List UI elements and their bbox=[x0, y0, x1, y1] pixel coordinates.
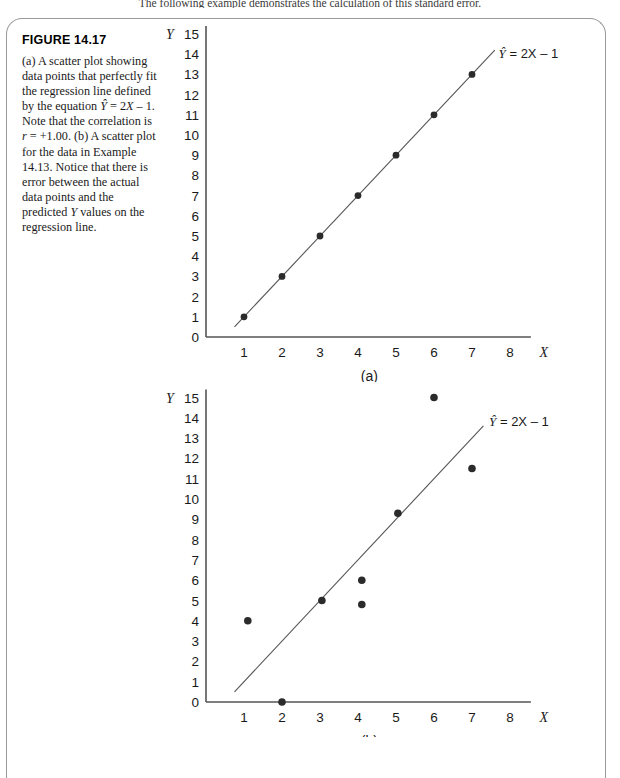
panel-label: (a) bbox=[361, 368, 378, 382]
data-point bbox=[279, 273, 286, 280]
y-tick-label: 10 bbox=[184, 128, 199, 143]
y-tick-label: 10 bbox=[184, 492, 199, 507]
y-tick-label: 0 bbox=[191, 330, 199, 345]
data-point bbox=[358, 601, 366, 609]
x-tick-label: 7 bbox=[468, 345, 476, 360]
eq-rest: = 2X – 1 bbox=[496, 414, 548, 429]
y-tick-label: 4 bbox=[191, 614, 199, 629]
y-tick-label: 0 bbox=[191, 695, 199, 710]
y-tick-label: 11 bbox=[185, 472, 199, 487]
running-head-text: The following example demonstrates the c… bbox=[0, 0, 620, 8]
x-tick-label: 3 bbox=[316, 710, 324, 725]
scatter-plot-b: 012345678910111213141512345678YXŶ = 2X … bbox=[160, 385, 580, 737]
y-tick-label: 2 bbox=[191, 290, 199, 305]
data-point bbox=[358, 576, 366, 584]
x-tick-label: 1 bbox=[240, 345, 248, 360]
y-tick-label: 8 bbox=[191, 168, 199, 183]
y-tick-label: 11 bbox=[185, 108, 199, 123]
x-tick-label: 8 bbox=[506, 345, 514, 360]
y-axis-title: Y bbox=[166, 27, 176, 42]
data-point bbox=[241, 313, 248, 320]
y-tick-label: 8 bbox=[191, 533, 199, 548]
x-axis-title: X bbox=[539, 710, 549, 725]
caption-fragment-3: X bbox=[126, 99, 133, 113]
x-tick-label: 5 bbox=[392, 710, 400, 725]
x-tick-label: 7 bbox=[468, 710, 476, 725]
caption-fragment-5: r bbox=[22, 129, 27, 143]
y-tick-label: 6 bbox=[191, 209, 199, 224]
y-tick-label: 13 bbox=[184, 431, 199, 446]
y-tick-label: 14 bbox=[184, 411, 200, 426]
y-tick-label: 3 bbox=[191, 634, 199, 649]
data-point bbox=[394, 509, 402, 517]
regression-line bbox=[235, 426, 484, 692]
data-point bbox=[317, 233, 324, 240]
y-tick-label: 5 bbox=[191, 229, 199, 244]
figure-caption-block: FIGURE 14.17 (a) A scatter plot showing … bbox=[22, 33, 158, 235]
caption-fragment-1: Ŷ bbox=[100, 99, 107, 113]
figure-caption-text: (a) A scatter plot showing data points t… bbox=[22, 54, 158, 235]
data-point bbox=[431, 111, 438, 118]
data-point bbox=[468, 465, 476, 473]
regression-equation-label: Ŷ = 2X – 1 bbox=[489, 414, 549, 429]
y-tick-label: 9 bbox=[191, 148, 199, 163]
x-tick-label: 4 bbox=[354, 710, 362, 725]
x-tick-label: 5 bbox=[392, 345, 400, 360]
x-tick-label: 6 bbox=[430, 710, 438, 725]
x-tick-label: 6 bbox=[430, 345, 438, 360]
data-point bbox=[318, 597, 326, 605]
x-tick-label: 1 bbox=[240, 710, 248, 725]
data-point bbox=[469, 71, 476, 78]
y-tick-label: 1 bbox=[191, 310, 199, 325]
regression-equation-label: Ŷ = 2X – 1 bbox=[499, 46, 559, 61]
data-point bbox=[244, 617, 252, 625]
x-tick-label: 4 bbox=[354, 345, 362, 360]
data-point bbox=[430, 394, 438, 402]
x-tick-label: 3 bbox=[316, 345, 324, 360]
y-tick-label: 13 bbox=[184, 67, 199, 82]
y-tick-label: 4 bbox=[191, 249, 199, 264]
y-tick-label: 2 bbox=[191, 654, 199, 669]
y-tick-label: 7 bbox=[191, 189, 199, 204]
y-tick-label: 6 bbox=[191, 573, 199, 588]
y-tick-label: 12 bbox=[184, 451, 199, 466]
caption-fragment-7: Y bbox=[70, 205, 77, 219]
eq-rest: = 2X – 1 bbox=[506, 46, 558, 61]
regression-line bbox=[235, 50, 495, 327]
y-tick-label: 7 bbox=[191, 553, 199, 568]
plot-a-svg: 012345678910111213141512345678YXŶ = 2X … bbox=[160, 22, 580, 382]
x-tick-label: 2 bbox=[278, 710, 286, 725]
x-tick-label: 2 bbox=[278, 345, 286, 360]
x-axis-title: X bbox=[539, 345, 549, 360]
y-tick-label: 15 bbox=[184, 391, 199, 406]
data-point bbox=[278, 698, 286, 706]
scatter-plot-a: 012345678910111213141512345678YXŶ = 2X … bbox=[160, 22, 580, 382]
panel-label: (b) bbox=[361, 733, 378, 737]
x-tick-label: 8 bbox=[506, 710, 514, 725]
y-tick-label: 9 bbox=[191, 512, 199, 527]
y-tick-label: 14 bbox=[184, 47, 200, 62]
y-tick-label: 5 bbox=[191, 594, 199, 609]
figure-number-label: FIGURE 14.17 bbox=[22, 33, 158, 47]
data-point bbox=[355, 192, 362, 199]
y-axis-title: Y bbox=[166, 391, 176, 406]
y-tick-label: 15 bbox=[184, 27, 199, 42]
y-tick-label: 1 bbox=[191, 675, 199, 690]
y-tick-label: 3 bbox=[191, 269, 199, 284]
y-tick-label: 12 bbox=[184, 88, 199, 103]
data-point bbox=[393, 152, 400, 159]
plot-b-svg: 012345678910111213141512345678YXŶ = 2X … bbox=[160, 385, 580, 737]
